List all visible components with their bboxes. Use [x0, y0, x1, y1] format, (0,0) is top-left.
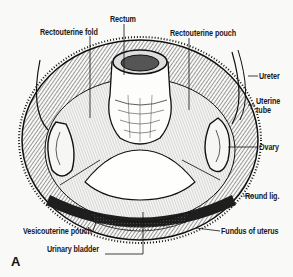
label-rectouterine-pouch: Rectouterine pouch [170, 29, 236, 38]
label-ureter: Ureter [259, 72, 280, 81]
anatomical-figure: Rectum Rectouterine fold Rectouterine po… [0, 0, 293, 277]
panel-letter: A [11, 254, 20, 269]
label-urinary-bladder: Urinary bladder [47, 245, 99, 254]
label-vesicouterine-pouch: Vesicouterine pouch [23, 227, 92, 236]
label-round-ligament: Round lig. [245, 192, 279, 201]
label-rectum: Rectum [110, 15, 136, 24]
label-rectouterine-fold: Rectouterine fold [40, 28, 98, 37]
label-uterine-tube-line2: tube [256, 106, 271, 115]
label-fundus-of-uterus: Fundus of uterus [221, 227, 278, 236]
label-ovary: Ovary [259, 143, 279, 152]
